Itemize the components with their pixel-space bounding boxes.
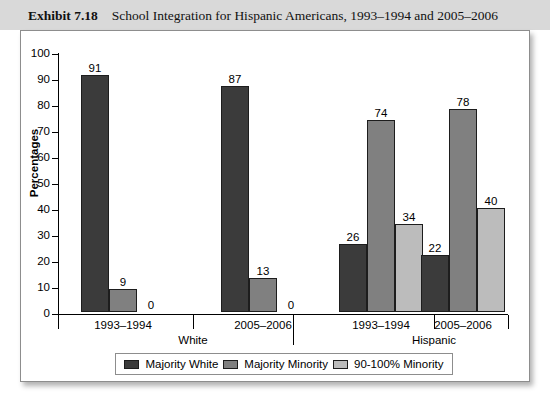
legend-item: 90-100% Minority — [333, 358, 443, 370]
exhibit-title: School Integration for Hispanic American… — [112, 8, 498, 23]
x-axis-supergroup-label: Hispanic — [384, 334, 484, 346]
y-axis-tick-label: 50 — [24, 178, 50, 189]
y-axis-line — [58, 53, 59, 315]
legend-label-majority-minority: Majority Minority — [244, 358, 328, 370]
bar-value-label: 34 — [389, 211, 429, 223]
y-axis-tick-label: 80 — [24, 100, 50, 111]
bar — [221, 86, 249, 312]
y-axis-tick-label: 100 — [24, 48, 50, 59]
bar — [339, 244, 367, 312]
x-axis-category-label: 2005–2006 — [218, 319, 308, 331]
legend-label-majority-white: Majority White — [145, 358, 218, 370]
y-axis-tick-label: 40 — [24, 204, 50, 215]
bar-value-label: 91 — [75, 62, 115, 74]
exhibit-number: Exhibit 7.18 — [28, 8, 98, 23]
chart-panel: Percentages 1009080706050403020100 91908… — [20, 30, 530, 382]
x-axis-edge-tick — [508, 315, 509, 329]
legend-swatch-majority-minority — [223, 360, 238, 369]
y-axis-tick-label: 60 — [24, 152, 50, 163]
bar-value-label: 78 — [443, 96, 483, 108]
bar-value-label: 13 — [243, 265, 283, 277]
bar-value-label: 74 — [361, 107, 401, 119]
y-axis-tick-label: 20 — [24, 256, 50, 267]
x-axis-edge-tick — [58, 315, 59, 329]
x-axis-supergroup-label: White — [143, 334, 243, 346]
x-axis-line — [58, 314, 508, 315]
x-axis-category-label: 1993–1994 — [78, 319, 168, 331]
x-axis-category-label: 2005–2006 — [418, 319, 508, 331]
exhibit-header-text: Exhibit 7.18School Integration for Hispa… — [28, 6, 498, 24]
y-axis-tick-labels: 1009080706050403020100 — [21, 31, 50, 383]
x-axis-minor-separator — [434, 315, 435, 329]
bar — [421, 255, 449, 312]
y-axis-tick-label: 70 — [24, 126, 50, 137]
exhibit-header: Exhibit 7.18School Integration for Hispa… — [0, 0, 550, 30]
bar-value-label: 0 — [271, 299, 311, 311]
legend-swatch-majority-white — [124, 360, 139, 369]
bar — [449, 109, 477, 312]
bar-value-label: 9 — [103, 276, 143, 288]
bar-value-label: 87 — [215, 73, 255, 85]
bar-value-label: 40 — [471, 195, 511, 207]
bar-value-label: 0 — [131, 299, 171, 311]
bar — [395, 224, 423, 312]
bar — [477, 208, 505, 312]
y-axis-tick-label: 0 — [24, 308, 50, 319]
legend-swatch-90-100-minority — [333, 360, 348, 369]
y-axis-tick-label: 30 — [24, 230, 50, 241]
exhibit-figure: Exhibit 7.18School Integration for Hispa… — [0, 0, 550, 402]
x-axis-category-label: 1993–1994 — [336, 319, 426, 331]
x-axis-minor-separator — [193, 315, 194, 329]
legend-item: Majority White — [124, 358, 218, 370]
y-axis-tick-label: 10 — [24, 282, 50, 293]
chart-legend: Majority White Majority Minority 90-100%… — [115, 353, 453, 375]
legend-item: Majority Minority — [223, 358, 328, 370]
x-axis-major-separator — [293, 315, 294, 345]
legend-label-90-100-minority: 90-100% Minority — [354, 358, 443, 370]
y-axis-tick-label: 90 — [24, 74, 50, 85]
